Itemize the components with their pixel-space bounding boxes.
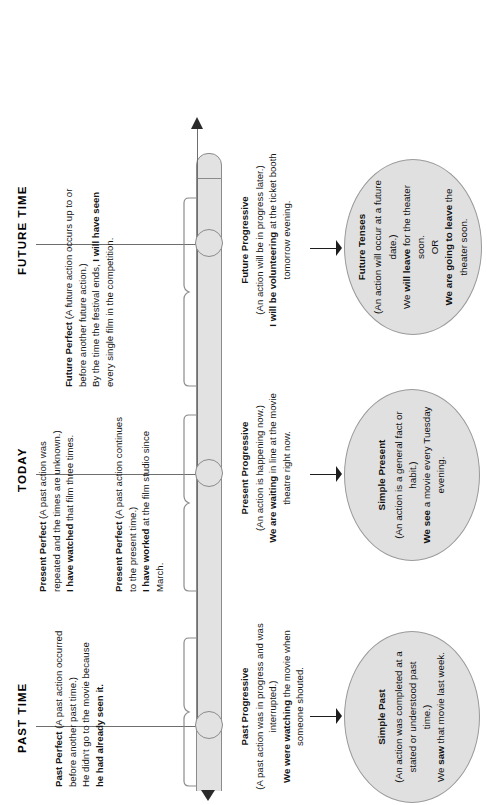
brace-future-perfect	[183, 197, 196, 387]
node-today	[195, 459, 223, 487]
header-today: TODAY	[16, 448, 28, 493]
oval-title-simple-past: Simple Past	[375, 689, 389, 745]
oval-example-future-tenses-1: We will leave for the theater soon.	[400, 176, 428, 318]
tense-label-present-perfect-repeated: Present Perfect	[37, 522, 48, 592]
tense-example-present-perfect-repeated-bold: I have watched	[64, 524, 75, 592]
tense-definition-present-progressive: (An action is happening now.)	[254, 405, 265, 531]
tense-label-present-progressive: Present Progressive	[238, 379, 252, 557]
tense-example-past-perfect-plain: He didn't go to the movie because	[80, 642, 91, 787]
oval-example-simple-past-bold: saw	[435, 746, 446, 765]
tense-timeline-diagram: PAST TIME TODAY FUTURE TIME Past Perfect…	[0, 0, 487, 805]
arrow-head-future-tenses	[336, 240, 342, 256]
brace-present-perfect	[183, 414, 196, 592]
arrow-head-simple-past	[336, 708, 342, 724]
tense-example-future-perfect-plain-2: every single film in the competition.	[104, 238, 115, 387]
tense-example-past-progressive-bold: We were watching	[281, 700, 292, 783]
oval-title-future-tenses: Future Tenses	[355, 214, 369, 280]
arrow-head-simple-present	[336, 466, 342, 482]
tense-example-future-perfect-plain-1: By the time the festival ends,	[90, 262, 101, 387]
tense-label-future-perfect: Future Perfect	[63, 322, 74, 387]
text-block-present-perfect-repeated: Present Perfect (A past action was repea…	[36, 407, 77, 592]
timeline-axis-arrowhead	[191, 117, 203, 129]
marker-rule-future	[36, 244, 198, 245]
oval-example-simple-present-plain: a movie every Tuesday evening.	[421, 406, 446, 509]
header-past-time: PAST TIME	[16, 683, 28, 753]
oval-example-future-bold-1: will leave	[401, 249, 412, 292]
arrow-stem-future-tenses	[310, 248, 338, 249]
tense-example-present-progressive-bold: We are waiting	[267, 476, 278, 543]
tense-definition-future-progressive: (An action will be in progress later.)	[254, 165, 265, 314]
oval-title-simple-present: Simple Present	[375, 440, 389, 511]
oval-example-future-plain-1: We	[401, 292, 412, 309]
tense-label-past-progressive: Past Progressive	[238, 614, 252, 799]
tense-label-future-progressive: Future Progressive	[238, 145, 252, 335]
arrow-stem-simple-past	[310, 716, 338, 717]
oval-example-simple-past-plain-1: We	[435, 765, 446, 782]
oval-example-future-tenses-2: We are going to leave the theater soon.	[442, 176, 470, 318]
timeline-arrow-left	[201, 790, 215, 801]
tense-example-present-perfect-repeated-plain: that film three times.	[64, 435, 75, 524]
oval-definition-future-tenses: (An action will occur at a future date.)	[371, 176, 399, 318]
oval-example-future-plain-2: for the theater soon.	[401, 185, 426, 259]
header-future-time: FUTURE TIME	[16, 186, 28, 275]
tense-definition-past-progressive: (A past action was in progress and was i…	[254, 623, 279, 789]
text-block-present-progressive: Present Progressive (An action is happen…	[238, 379, 293, 557]
oval-example-simple-past-plain-2: that movie last week.	[435, 652, 446, 746]
oval-example-simple-past: We saw that movie last week.	[434, 652, 448, 782]
brace-past-perfect	[183, 637, 196, 787]
oval-example-simple-present: We see a movie every Tuesday evening.	[420, 406, 448, 544]
tense-example-past-perfect-bold: he had already seen it.	[94, 684, 105, 787]
tense-label-past-perfect: Past Perfect	[53, 732, 64, 787]
oval-future-tenses: Future Tenses (An action will occur at a…	[344, 159, 482, 335]
node-future	[195, 229, 223, 257]
text-block-past-perfect: Past Perfect (A past action occurred bef…	[52, 612, 106, 787]
oval-or-label-future-tenses: OR	[428, 240, 442, 255]
oval-simple-present: Simple Present (An action is a general f…	[344, 389, 480, 561]
timeline-bar-right-cap	[196, 153, 222, 179]
arrow-stem-simple-present	[310, 474, 338, 475]
tense-example-present-perfect-continues-bold: I have worked	[140, 529, 151, 592]
oval-simple-past: Simple Past (An action was completed at …	[344, 631, 480, 803]
oval-example-simple-present-bold: We see	[421, 510, 432, 544]
text-block-present-perfect-continues: Present Perfect (A past action continues…	[112, 407, 166, 592]
timeline-axis	[197, 122, 198, 727]
tense-example-future-progressive-bold: I will be volunteering	[267, 232, 278, 327]
text-block-future-progressive: Future Progressive (An action will be in…	[238, 145, 293, 335]
oval-definition-simple-past: (An action was completed at a stated or …	[392, 648, 435, 786]
text-block-future-perfect: Future Perfect (A future action occurs u…	[62, 182, 116, 387]
rotated-poster-wrapper: PAST TIME TODAY FUTURE TIME Past Perfect…	[0, 0, 487, 805]
tense-example-future-perfect-bold: I will have seen	[90, 192, 101, 262]
text-block-past-progressive: Past Progressive (A past action was in p…	[238, 614, 307, 799]
node-past	[195, 711, 223, 739]
oval-example-future-bold-2: We are going to leave	[443, 205, 454, 306]
oval-definition-simple-present: (An action is a general fact or habit.)	[392, 406, 420, 544]
tense-label-present-perfect-continues: Present Perfect	[113, 522, 124, 592]
